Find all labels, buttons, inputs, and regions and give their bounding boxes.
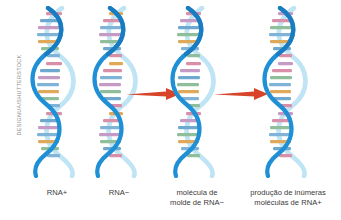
- rna-helix-1: [26, 6, 88, 178]
- caption-line: moléculas de RNA+: [236, 198, 340, 208]
- rna-helix-icon: [258, 6, 320, 178]
- caption-rna-plus: RNA+: [26, 188, 88, 198]
- caption-production: produção de inúmeras moléculas de RNA+: [236, 188, 340, 209]
- figure-canvas: DESIGNUA/SHUTTERSTOCK: [0, 0, 341, 220]
- caption-line: RNA+: [26, 188, 88, 198]
- caption-template: molécula de molde de RNA−: [154, 188, 240, 209]
- rna-helix-4: [258, 6, 320, 178]
- caption-line: molécula de: [154, 188, 240, 198]
- caption-line: produção de inúmeras: [236, 188, 340, 198]
- rna-helix-icon: [26, 6, 88, 178]
- caption-line: RNA−: [88, 188, 150, 198]
- caption-line: molde de RNA−: [154, 198, 240, 208]
- caption-rna-minus: RNA−: [88, 188, 150, 198]
- image-credit: DESIGNUA/SHUTTERSTOCK: [16, 40, 22, 150]
